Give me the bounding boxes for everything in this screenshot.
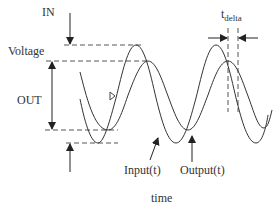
reference-lines xyxy=(45,28,238,143)
phase-delay-diagram: IN Voltage OUT tdelta Input(t) Output(t)… xyxy=(0,0,273,217)
in-label: IN xyxy=(42,6,55,18)
diagram-canvas xyxy=(0,0,273,217)
time-axis-label: time xyxy=(151,192,172,204)
input-label: Input(t) xyxy=(124,164,161,176)
t-delta-label: tdelta xyxy=(221,8,242,20)
input-pointer-arrow xyxy=(150,138,158,160)
t-delta-subscript: delta xyxy=(224,13,242,23)
out-label: OUT xyxy=(17,94,42,106)
voltage-label: Voltage xyxy=(8,45,44,57)
tick-mark xyxy=(110,92,115,100)
input-waveform xyxy=(80,45,268,143)
output-waveform xyxy=(80,61,272,130)
output-label: Output(t) xyxy=(180,164,225,176)
